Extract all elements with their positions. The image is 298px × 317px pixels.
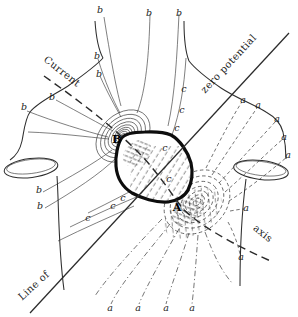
- zero-potential-label: zero potential: [199, 32, 259, 95]
- right-arm-stump: [233, 157, 290, 183]
- field-line-label-b: b: [176, 7, 182, 18]
- field-line-label-a: a: [274, 113, 280, 124]
- field-line-label-c: c: [85, 212, 91, 223]
- current-label: Current: [42, 54, 83, 89]
- field-line-label-a: a: [135, 302, 141, 313]
- field-line-label-c: c: [120, 192, 126, 203]
- field-line-label-b: b: [21, 101, 27, 112]
- field-line-label-c: c: [179, 104, 185, 115]
- field-line-label-c: c: [181, 83, 187, 94]
- axis-label: axis: [251, 222, 275, 244]
- field-line-label-a: a: [238, 251, 244, 262]
- line-of-label: Line of: [16, 268, 52, 302]
- field-line-label-a: a: [107, 302, 113, 313]
- field-line-label-b: b: [49, 91, 55, 102]
- pole-b-label: B: [112, 133, 121, 146]
- field-line-label-b: b: [146, 7, 152, 18]
- field-line-label-b: b: [96, 68, 102, 79]
- heart: [116, 132, 194, 206]
- field-line-label-c: c: [110, 200, 116, 211]
- pole-a-label: A: [172, 201, 182, 214]
- figure-canvas: bbbbbbbbbccccccccaaaaaaaaaaa Current zer…: [0, 0, 298, 317]
- field-line-label-a: a: [189, 302, 195, 313]
- field-line-label-a: a: [243, 202, 249, 213]
- field-line-label-a: a: [281, 131, 287, 142]
- field-line-label-b: b: [97, 4, 103, 15]
- torso-dipole-diagram: bbbbbbbbbccccccccaaaaaaaaaaa Current zer…: [0, 0, 298, 317]
- field-line-label-c: c: [162, 142, 168, 153]
- field-line-label-a: a: [240, 94, 246, 105]
- field-line-label-a: a: [255, 99, 261, 110]
- field-line-label-b: b: [36, 184, 42, 195]
- field-line-label-b: b: [94, 50, 100, 61]
- field-line-label-c: c: [166, 173, 172, 184]
- field-line-label-c: c: [174, 122, 180, 133]
- field-line-label-b: b: [37, 200, 43, 211]
- field-line-label-a: a: [163, 302, 169, 313]
- field-line-label-a: a: [285, 149, 291, 160]
- current-flow-lines: [27, 14, 186, 241]
